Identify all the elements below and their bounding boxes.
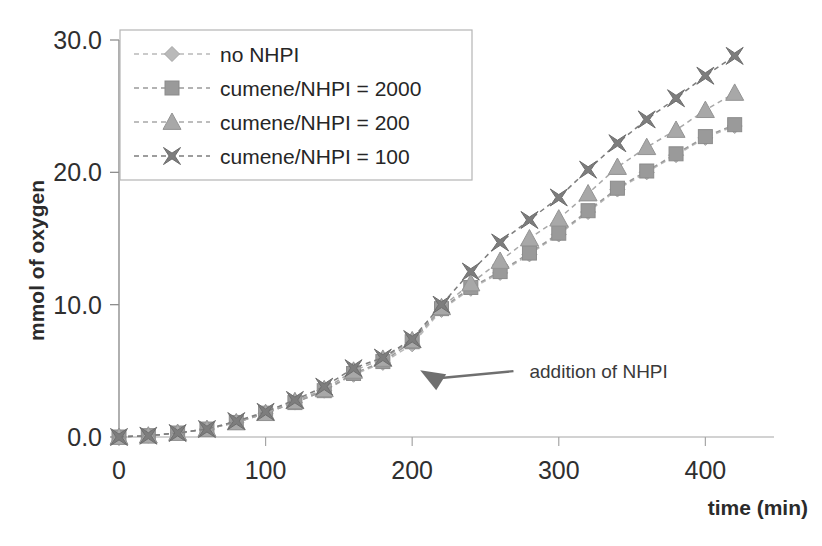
legend-box: no NHPIcumene/NHPI = 2000cumene/NHPI = 2…: [120, 30, 472, 180]
data-point: [581, 204, 595, 218]
data-point: [522, 246, 536, 260]
data-point: [610, 181, 624, 195]
x-axis-tick-label: 100: [245, 456, 287, 484]
legend-item-label: cumene/NHPI = 200: [220, 111, 410, 134]
legend-item-label: cumene/NHPI = 2000: [220, 77, 421, 100]
data-point: [552, 226, 566, 240]
y-axis-tick-label: 10.0: [53, 291, 102, 319]
y-axis-tick-label: 20.0: [53, 158, 102, 186]
x-axis-tick-label: 200: [391, 456, 433, 484]
data-point: [669, 147, 683, 161]
legend-item-label: cumene/NHPI = 100: [220, 145, 410, 168]
x-axis-tick-label: 400: [685, 456, 727, 484]
chart-figure: 0.010.020.030.00100200300400time (min)mm…: [0, 0, 822, 546]
x-axis-title: time (min): [708, 496, 808, 519]
data-point: [698, 130, 712, 144]
data-point: [640, 164, 654, 178]
y-axis-tick-label: 0.0: [67, 423, 102, 451]
y-axis-title: mmol of oxygen: [25, 180, 48, 341]
oxygen-uptake-line-chart: 0.010.020.030.00100200300400time (min)mm…: [0, 0, 822, 546]
annotation-label: addition of NHPI: [529, 361, 667, 382]
x-axis-tick-label: 300: [538, 456, 580, 484]
data-point: [728, 118, 742, 132]
legend-item-label: no NHPI: [220, 43, 299, 66]
x-axis-tick-label: 0: [112, 456, 126, 484]
legend-marker-square: [165, 81, 179, 95]
y-axis-tick-label: 30.0: [53, 26, 102, 54]
